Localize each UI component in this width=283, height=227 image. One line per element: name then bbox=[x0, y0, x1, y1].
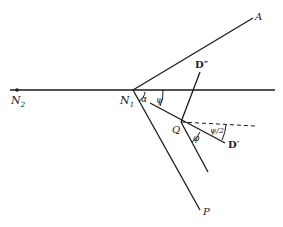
label-n1: N1 bbox=[119, 94, 134, 109]
geometry-diagram: N2 N1 A P Q D′ D″ α ψ φ ψ/2 bbox=[0, 0, 283, 227]
line-n1-q-dprime bbox=[150, 103, 225, 143]
line-n1-p bbox=[133, 90, 200, 210]
label-n2: N2 bbox=[10, 94, 26, 109]
label-p: P bbox=[202, 206, 210, 217]
line-n1-a bbox=[133, 18, 253, 90]
line-q-parallel-to-p bbox=[181, 122, 208, 172]
label-a: A bbox=[254, 11, 262, 22]
label-alpha: α bbox=[141, 94, 147, 104]
label-psi-half: ψ/2 bbox=[210, 126, 224, 135]
point-n2-dot bbox=[15, 88, 19, 92]
label-psi: ψ bbox=[156, 95, 164, 105]
label-phi: φ bbox=[193, 133, 200, 143]
label-d-double-prime: D″ bbox=[195, 59, 209, 70]
label-q: Q bbox=[172, 124, 180, 135]
line-q-ddoubleprime bbox=[181, 72, 200, 122]
label-d-prime: D′ bbox=[228, 139, 240, 150]
